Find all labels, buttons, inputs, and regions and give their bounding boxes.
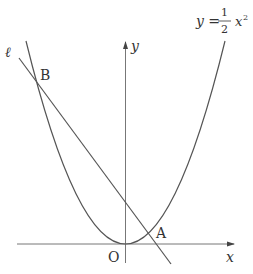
line-l (19, 58, 171, 264)
y-axis-label: y (130, 38, 140, 54)
point-b-label: B (40, 67, 50, 83)
point-a-label: A (155, 225, 167, 241)
origin-label: O (108, 249, 119, 265)
equation-variable: x (235, 14, 243, 29)
line-l-label: ℓ (5, 44, 11, 60)
diagram-canvas: ℓ B A O x y y = 1 2 x 2 (0, 0, 253, 274)
equation-numerator: 1 (221, 6, 228, 19)
x-axis-label: x (226, 249, 234, 265)
equation-denominator: 2 (221, 23, 228, 36)
equation-prefix: y = (195, 13, 220, 29)
curve-equation-label: y = 1 2 x 2 (195, 6, 248, 36)
equation-exponent: 2 (243, 13, 248, 22)
